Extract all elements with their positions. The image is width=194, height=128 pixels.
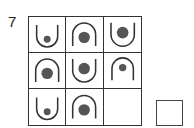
cup-with-small-dot-icon xyxy=(29,89,65,125)
cup-with-small-dot-icon xyxy=(29,17,65,52)
cup-with-large-dot-icon xyxy=(66,53,102,88)
question-number: 7 xyxy=(8,14,16,30)
arch-with-large-dot-icon xyxy=(66,89,102,125)
matrix-cell-r2c3 xyxy=(104,53,141,89)
answer-box[interactable] xyxy=(156,100,183,126)
puzzle-matrix xyxy=(28,16,142,126)
matrix-cell-r1c3 xyxy=(104,17,141,53)
matrix-cell-r3c2 xyxy=(66,89,103,125)
matrix-cell-r1c1 xyxy=(29,17,66,53)
arch-with-large-dot-icon xyxy=(66,17,102,52)
matrix-cell-r2c1 xyxy=(29,53,66,89)
cup-with-large-dot-icon xyxy=(104,17,141,52)
matrix-cell-r3c1 xyxy=(29,89,66,125)
matrix-cell-r2c2 xyxy=(66,53,103,89)
matrix-cell-r1c2 xyxy=(66,17,103,53)
arch-with-small-dot-icon xyxy=(104,53,141,88)
matrix-cell-r3c3-missing xyxy=(104,89,141,125)
arch-with-large-dot-icon xyxy=(29,53,65,88)
